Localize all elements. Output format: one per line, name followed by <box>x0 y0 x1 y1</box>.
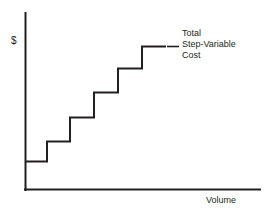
callout-line-2: Step-Variable <box>182 39 236 50</box>
step-variable-cost-chart: $ Volume Total Step-Variable Cost <box>0 0 271 218</box>
series-callout: Total Step-Variable Cost <box>182 28 236 60</box>
y-axis-label: $ <box>11 35 17 46</box>
x-axis-label: Volume <box>206 196 236 206</box>
callout-line-3: Cost <box>182 50 236 61</box>
step-cost-line <box>25 47 166 162</box>
callout-line-1: Total <box>182 28 236 39</box>
